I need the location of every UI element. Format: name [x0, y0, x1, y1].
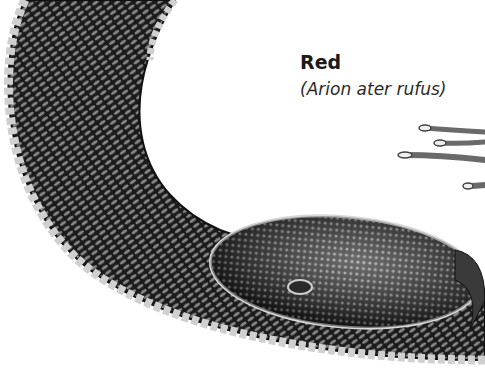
pneumostome	[288, 280, 312, 294]
species-caption: Red (Arion ater rufus)	[300, 50, 447, 100]
tentacles	[405, 128, 485, 186]
caption-scientific-name: (Arion ater rufus)	[300, 78, 447, 100]
caption-title: Red	[300, 50, 447, 74]
